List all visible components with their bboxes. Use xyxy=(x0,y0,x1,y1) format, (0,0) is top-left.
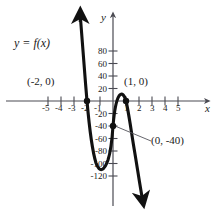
y-tick-label--80: -80 xyxy=(88,147,107,156)
graph-figure: -5 -4 -3 -2 -1 1 2 3 4 5 80 60 40 20 -20… xyxy=(0,0,223,214)
y-tick-label-20: 20 xyxy=(94,85,107,94)
y-tick-label-80: 80 xyxy=(94,47,107,56)
x-tick-label-1: 1 xyxy=(124,104,129,113)
x-tick-label--3: -3 xyxy=(68,104,76,113)
annotation-point-0-neg40: (0, -40) xyxy=(151,135,184,146)
y-tick-label--60: -60 xyxy=(88,135,107,144)
x-tick-label-5: 5 xyxy=(176,104,181,113)
y-tick-label--20: -20 xyxy=(88,110,107,119)
annotation-point-1-0: (1, 0) xyxy=(124,76,148,87)
x-tick-label--4: -4 xyxy=(55,104,63,113)
x-tick-label-3: 3 xyxy=(150,104,155,113)
y-tick-label--40: -40 xyxy=(88,122,107,131)
x-axis-name: x xyxy=(205,103,210,114)
y-tick-label--120: -120 xyxy=(82,172,107,181)
function-label: y = f(x) xyxy=(14,37,50,49)
cubic-graph-plot xyxy=(0,0,223,214)
point-marker-0-neg40 xyxy=(110,123,116,129)
x-tick-label--5: -5 xyxy=(42,104,50,113)
y-axis-name: y xyxy=(101,12,106,23)
y-tick-label--100: -100 xyxy=(82,160,107,169)
y-tick-label-60: 60 xyxy=(94,60,107,69)
y-tick-label-40: 40 xyxy=(94,72,107,81)
annotation-point-neg2-0: (-2, 0) xyxy=(27,76,55,87)
x-tick-label-4: 4 xyxy=(163,104,168,113)
x-tick-label-2: 2 xyxy=(137,104,142,113)
